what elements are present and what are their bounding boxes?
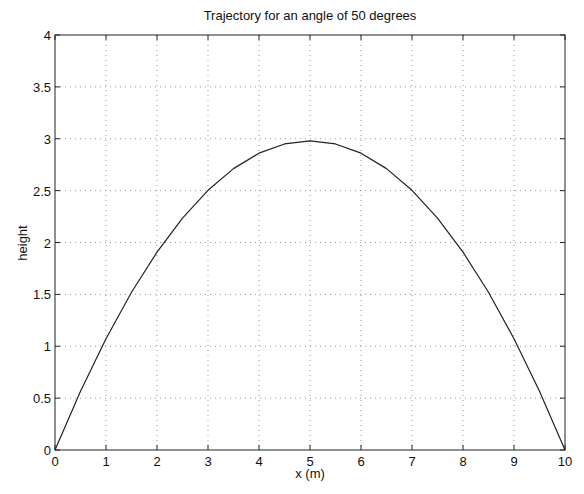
y-tick-label: 3.5 xyxy=(33,80,51,95)
y-tick-label: 2.5 xyxy=(33,184,51,199)
tick-labels: 01234567891000.511.522.533.54 xyxy=(33,28,572,469)
plot-area: 01234567891000.511.522.533.54 xyxy=(0,0,584,494)
y-tick-label: 4 xyxy=(44,28,51,43)
y-tick-label: 3 xyxy=(44,132,51,147)
grid-lines xyxy=(55,35,565,450)
x-axis-label: x (m) xyxy=(55,466,565,481)
y-tick-label: 0 xyxy=(44,443,51,458)
y-tick-label: 0.5 xyxy=(33,391,51,406)
y-tick-label: 1 xyxy=(44,339,51,354)
chart-figure: Trajectory for an angle of 50 degrees 01… xyxy=(0,0,584,494)
y-tick-label: 2 xyxy=(44,236,51,251)
y-tick-label: 1.5 xyxy=(33,287,51,302)
y-axis-label: height xyxy=(15,225,30,260)
